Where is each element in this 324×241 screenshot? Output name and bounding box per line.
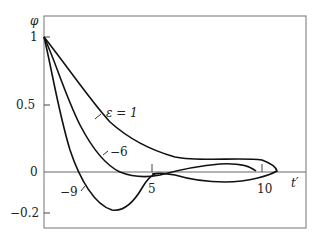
chart: 1 0.5 0 −0.2 5 10 φ t′ ε = 1 −6 −9 (0, 0, 324, 241)
label-leader (81, 186, 85, 191)
y-tick-label: 1 (30, 30, 38, 44)
label-leader (103, 151, 108, 155)
y-tick-label: −0.2 (10, 206, 39, 220)
x-tick-label: 5 (148, 182, 156, 196)
y-axis-label: φ (30, 14, 39, 28)
curve-label-eps-1: ε = 1 (106, 106, 138, 120)
label-leader (95, 114, 101, 119)
y-tick-label: 0.5 (16, 98, 35, 112)
curve-eps-neg6 (44, 37, 256, 177)
curve-label-neg6: −6 (110, 145, 128, 159)
x-axis-label: t′ (291, 176, 299, 190)
y-tick-label: 0 (30, 165, 38, 179)
x-tick-label: 10 (257, 182, 272, 196)
curve-eps-1 (44, 37, 277, 182)
plot-frame (44, 16, 306, 228)
curve-label-neg9: −9 (60, 185, 78, 199)
